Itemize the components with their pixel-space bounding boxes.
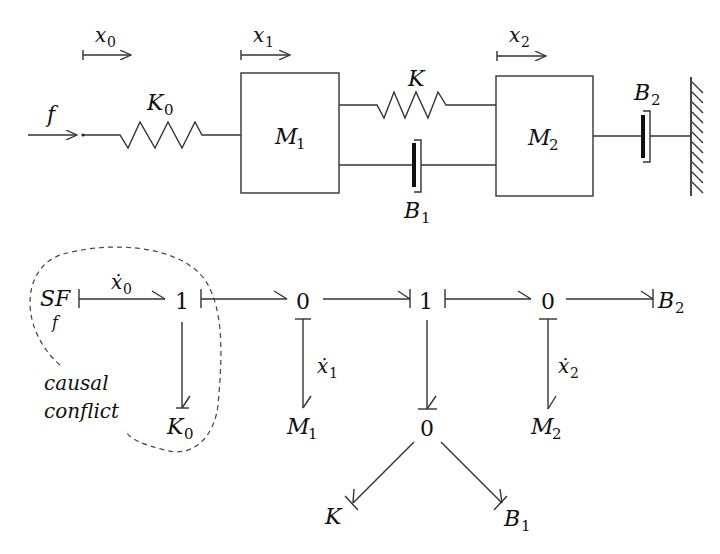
svg-text:0: 0 <box>164 101 174 119</box>
svg-text:M: M <box>527 125 551 150</box>
svg-text:2: 2 <box>552 425 562 443</box>
svg-text:x: x <box>509 23 520 47</box>
element-k0: K 0 <box>166 414 194 443</box>
svg-text:K: K <box>407 66 426 91</box>
svg-text:0: 0 <box>184 425 194 443</box>
svg-text:2: 2 <box>549 136 559 154</box>
svg-text:1: 1 <box>308 425 318 443</box>
bond-1b-0b <box>445 289 531 308</box>
svg-text:K: K <box>324 504 343 529</box>
svg-text:2: 2 <box>570 365 579 381</box>
source-sf: SF f <box>40 286 71 332</box>
spring-k: K <box>339 66 496 118</box>
svg-text:SF: SF <box>40 286 71 311</box>
svg-text:conflict: conflict <box>44 399 120 423</box>
bond-graph: causal conflict SF f ẋ 0 1 K 0 <box>30 247 685 535</box>
svg-text:2: 2 <box>675 299 685 317</box>
svg-text:ẋ: ẋ <box>317 354 328 378</box>
element-k: K <box>324 504 343 529</box>
element-m2: M 2 <box>530 414 562 443</box>
damper-b1: B 1 <box>339 140 496 227</box>
svg-text:1: 1 <box>265 34 274 50</box>
svg-text:K: K <box>146 90 165 115</box>
bond-0b-b2 <box>566 289 653 308</box>
bond-0b-m2: ẋ 2 <box>539 319 579 409</box>
svg-text:x: x <box>95 23 106 47</box>
element-m1: M 1 <box>286 414 318 443</box>
svg-text:B: B <box>503 506 520 531</box>
svg-text:0: 0 <box>123 281 132 297</box>
displacement-x2: x 2 <box>497 23 546 61</box>
junction-0b: 0 <box>541 289 555 314</box>
svg-text:B: B <box>403 198 420 223</box>
junction-0a: 0 <box>296 289 310 314</box>
svg-text:1: 1 <box>296 135 306 153</box>
svg-text:causal: causal <box>44 371 109 395</box>
svg-text:B: B <box>657 288 674 313</box>
svg-text:f: f <box>51 313 61 332</box>
mass-m2: M 2 <box>496 76 593 196</box>
mechanical-system: x 0 x 1 x 2 f K 0 <box>28 23 703 227</box>
bond-0a-1b <box>323 289 410 308</box>
fixed-wall <box>691 77 703 196</box>
svg-text:B: B <box>633 80 650 105</box>
junction-0c: 0 <box>420 416 434 441</box>
svg-text:M: M <box>274 124 298 149</box>
svg-text:1: 1 <box>521 517 531 535</box>
bond-0a-m1: ẋ 1 <box>295 319 338 408</box>
diagram-canvas: x 0 x 1 x 2 f K 0 <box>0 0 720 554</box>
bond-1a-k0 <box>176 322 190 408</box>
svg-text:K: K <box>166 414 185 439</box>
causal-conflict-region: causal conflict <box>30 247 221 452</box>
bond-sf-1: ẋ 0 <box>79 270 165 308</box>
mass-m1: M 1 <box>241 73 339 193</box>
element-b2: B 2 <box>657 288 685 317</box>
svg-text:1: 1 <box>421 209 431 227</box>
svg-text:ẋ: ẋ <box>558 354 569 378</box>
svg-text:1: 1 <box>329 365 338 381</box>
bond-0c-k <box>345 442 414 510</box>
bond-1b-0c <box>418 320 437 409</box>
svg-text:0: 0 <box>107 34 116 50</box>
element-b1: B 1 <box>503 506 531 535</box>
svg-text:2: 2 <box>651 91 661 109</box>
svg-text:2: 2 <box>521 34 530 50</box>
junction-1b: 1 <box>419 289 433 314</box>
svg-text:f: f <box>45 102 59 127</box>
spring-k0: K 0 <box>84 90 241 148</box>
svg-text:x: x <box>253 23 264 47</box>
force-input: f <box>28 102 85 137</box>
svg-text:ẋ: ẋ <box>111 270 122 294</box>
svg-text:M: M <box>286 414 310 439</box>
bond-0c-b1 <box>441 442 507 510</box>
displacement-x0: x 0 <box>83 23 131 60</box>
bond-1a-0a <box>201 289 287 308</box>
displacement-x1: x 1 <box>241 23 290 60</box>
svg-text:M: M <box>530 414 554 439</box>
junction-1a: 1 <box>175 289 189 314</box>
damper-b2: B 2 <box>593 80 691 162</box>
